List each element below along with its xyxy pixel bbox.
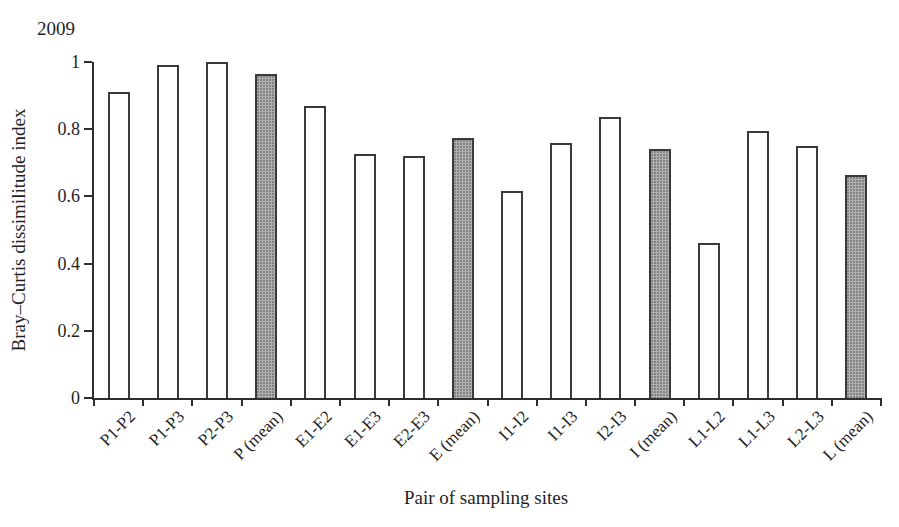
x-tick-mark	[191, 398, 193, 406]
mean-bar	[845, 175, 867, 398]
pair-bar	[550, 143, 572, 398]
mean-bar	[255, 74, 277, 398]
x-tick-label: L (mean)	[819, 407, 877, 465]
x-tick-label: P (mean)	[230, 407, 287, 464]
x-tick-mark	[585, 398, 587, 406]
x-tick-mark	[437, 398, 439, 406]
x-tick-label: I2-I3	[593, 407, 631, 445]
pair-bar	[747, 131, 769, 398]
x-tick-label: E2-E3	[390, 407, 435, 452]
x-tick-mark	[536, 398, 538, 406]
y-tick-label: 0.8	[58, 119, 81, 139]
x-tick-label: P1-P2	[96, 407, 140, 451]
x-tick-label: L1-L3	[734, 407, 779, 452]
x-tick-label: E (mean)	[426, 407, 485, 466]
x-tick-mark	[782, 398, 784, 406]
pair-bar	[304, 106, 326, 398]
x-tick-label: I (mean)	[626, 407, 681, 462]
x-tick-mark	[339, 398, 341, 406]
y-tick-label: 0	[71, 388, 80, 408]
y-tick-mark	[84, 263, 92, 265]
y-tick-label: 1	[71, 52, 80, 72]
y-tick-label: 0.6	[58, 186, 81, 206]
y-tick-label: 0.4	[58, 254, 81, 274]
x-tick-mark	[880, 398, 882, 406]
y-axis-title: Bray–Curtis dissimilitude index	[8, 109, 30, 352]
pair-bar	[698, 243, 720, 398]
mean-bar	[452, 138, 474, 398]
pair-bar	[403, 156, 425, 398]
x-tick-label: E1-E2	[292, 407, 337, 452]
y-tick-mark	[84, 330, 92, 332]
x-tick-label: P2-P3	[195, 407, 239, 451]
y-tick-mark	[84, 397, 92, 399]
y-tick-label: 0.2	[58, 321, 81, 341]
y-tick-mark	[84, 128, 92, 130]
x-tick-mark	[388, 398, 390, 406]
x-axis-title: Pair of sampling sites	[404, 487, 568, 509]
x-tick-label: I1-I2	[495, 407, 533, 445]
x-tick-label: E1-E3	[341, 407, 386, 452]
year-annotation: 2009	[37, 18, 75, 40]
pair-bar	[206, 62, 228, 398]
pair-bar	[354, 154, 376, 398]
x-tick-mark	[634, 398, 636, 406]
x-tick-mark	[93, 398, 95, 406]
x-tick-mark	[683, 398, 685, 406]
bray-curtis-bar-chart: 2009 Bray–Curtis dissimilitude index 00.…	[0, 0, 899, 527]
y-tick-mark	[84, 61, 92, 63]
pair-bar	[501, 191, 523, 398]
x-tick-label: L1-L2	[685, 407, 730, 452]
x-tick-mark	[831, 398, 833, 406]
x-tick-mark	[487, 398, 489, 406]
pair-bar	[108, 92, 130, 398]
pair-bar	[157, 65, 179, 398]
x-tick-label: L2-L3	[784, 407, 829, 452]
x-tick-mark	[732, 398, 734, 406]
x-tick-mark	[241, 398, 243, 406]
x-tick-label: P1-P3	[145, 407, 189, 451]
x-tick-mark	[290, 398, 292, 406]
y-tick-mark	[84, 195, 92, 197]
mean-bar	[649, 149, 671, 398]
pair-bar	[796, 146, 818, 398]
pair-bar	[599, 117, 621, 398]
x-tick-mark	[142, 398, 144, 406]
x-tick-label: I1-I3	[544, 407, 582, 445]
plot-area: 00.20.40.60.81P1-P2P1-P3P2-P3P (mean)E1-…	[92, 62, 881, 400]
